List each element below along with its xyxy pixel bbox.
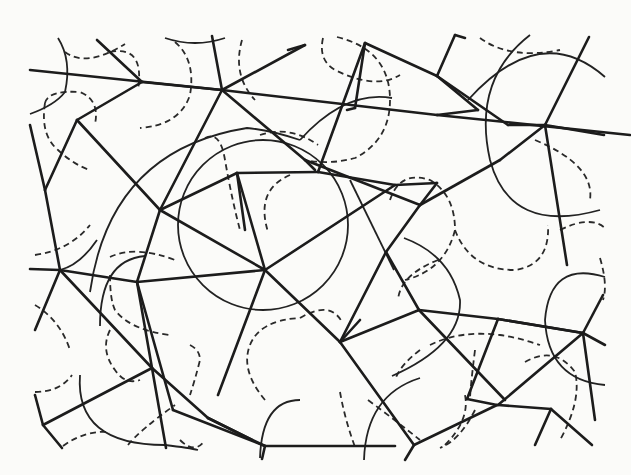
tile-edge [160, 90, 222, 210]
tile-edge [222, 90, 437, 115]
tile-edge [262, 446, 265, 459]
dashed-arc [390, 178, 455, 281]
solid-arcs [30, 35, 605, 460]
tile-edge [237, 172, 318, 173]
tile-edge [498, 333, 583, 405]
tile-edge [265, 185, 395, 270]
dashed-arc [395, 350, 420, 380]
tile-edge [222, 45, 305, 90]
dashed-arc [44, 103, 90, 170]
solid-arc [392, 238, 460, 376]
tile-edge [545, 37, 589, 125]
tile-edges [30, 35, 630, 460]
dashed-arc [63, 432, 110, 446]
tiling-diagram [0, 0, 631, 475]
tile-edge [77, 82, 142, 120]
tile-edge [386, 205, 420, 252]
tile-edge [35, 270, 60, 330]
tile-edge [498, 319, 583, 333]
dashed-arc [190, 345, 200, 395]
tile-edge [77, 120, 160, 210]
tile-edge [45, 190, 60, 270]
tile-edge [340, 342, 414, 445]
solid-arc [165, 38, 225, 43]
tile-edge [467, 399, 497, 405]
tile-edge [500, 125, 545, 160]
tile-edge [347, 108, 355, 110]
tile-edge [318, 172, 395, 185]
tile-edge [97, 40, 142, 82]
dashed-arc [398, 260, 438, 300]
tile-edge [30, 269, 60, 270]
dashed-arc [300, 310, 342, 322]
dashed-arc [480, 38, 560, 53]
tile-edge [419, 310, 505, 400]
tile-edge [386, 252, 419, 310]
tile-edge [305, 160, 420, 205]
dashed-arc [455, 225, 548, 270]
dashed-arc [305, 37, 390, 162]
tile-edge [340, 252, 386, 342]
dashed-arc [35, 225, 90, 255]
tile-edge [455, 35, 465, 38]
tile-edge [405, 445, 414, 460]
dashed-arc [525, 355, 577, 440]
tile-edge [43, 368, 152, 425]
tile-edge [142, 82, 222, 90]
tile-edge [318, 43, 365, 172]
tile-edge [35, 395, 43, 425]
tile-edge [222, 90, 305, 160]
tile-edge [265, 270, 340, 342]
dashed-arc [128, 405, 175, 445]
dashed-arc [535, 140, 590, 200]
tile-edge [583, 295, 603, 333]
tile-edge [340, 310, 419, 342]
dashed-arc [560, 222, 605, 230]
tile-edge [535, 409, 551, 445]
tile-edge [498, 405, 551, 409]
dashed-arc [45, 92, 96, 124]
tile-edge [160, 173, 237, 210]
tile-edge [545, 125, 604, 135]
dashed-arc [264, 175, 290, 232]
tile-edge [437, 110, 478, 115]
tile-edge [45, 120, 77, 190]
solid-arc [260, 400, 300, 458]
dashed-arc [35, 375, 72, 392]
tile-edge [137, 210, 160, 282]
dashed-arc [35, 305, 70, 350]
solid-arc [468, 53, 605, 100]
tile-edge [583, 333, 595, 420]
tile-edge [437, 35, 455, 76]
dashed-arc [180, 440, 205, 448]
dashed-arc [247, 318, 300, 400]
dashed-arc [368, 400, 420, 440]
tile-edge [212, 36, 222, 90]
solid-arc [30, 38, 67, 114]
tile-edge [545, 125, 567, 265]
dashed-arc [600, 258, 605, 300]
tile-edge [60, 270, 137, 282]
tile-edge [30, 125, 45, 190]
tile-edge [137, 270, 265, 282]
dashed-arc [340, 392, 355, 447]
tile-edge [43, 425, 62, 448]
tile-edge [583, 333, 605, 345]
dashed-arc [260, 132, 318, 145]
tile-edge [208, 418, 265, 446]
